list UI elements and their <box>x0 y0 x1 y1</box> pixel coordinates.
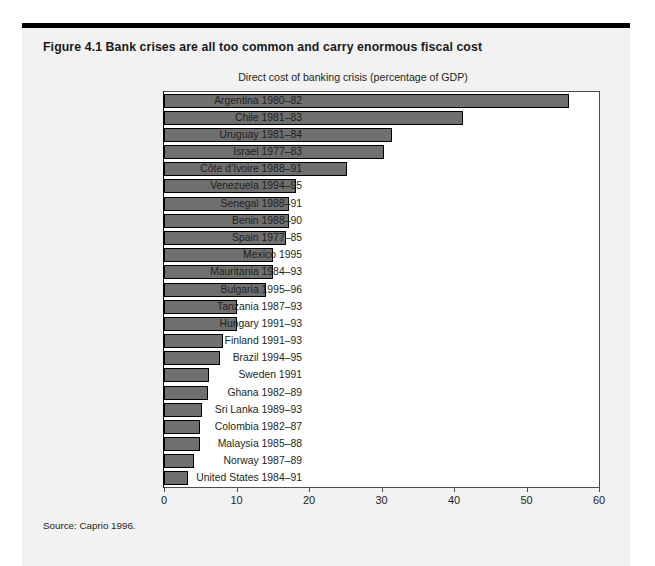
category-label: Mauritania 1984–93 <box>132 266 302 277</box>
x-axis-tick <box>599 487 600 492</box>
category-label: Hungary 1991–93 <box>132 318 302 329</box>
category-label: Uruguay 1981–84 <box>132 129 302 140</box>
x-axis-tick-label: 50 <box>520 494 532 506</box>
plot-area: Argentina 1980–82Chile 1981–83Uruguay 19… <box>163 91 600 488</box>
x-axis-tick <box>164 487 165 492</box>
x-axis-tick-label: 20 <box>303 494 315 506</box>
category-label: Bulgaria 1995–96 <box>132 284 302 295</box>
category-label: Sweden 1991 <box>132 369 302 380</box>
chart-subtitle: Direct cost of banking crisis (percentag… <box>22 71 630 83</box>
category-label: United States 1984–91 <box>132 472 302 483</box>
category-label: Ghana 1982–89 <box>132 387 302 398</box>
category-label: Sri Lanka 1989–93 <box>132 404 302 415</box>
category-label: Colombia 1982–87 <box>132 421 302 432</box>
category-label: Benin 1988–90 <box>132 215 302 226</box>
category-label: Finland 1991–93 <box>132 335 302 346</box>
category-label: Spain 1977–85 <box>132 232 302 243</box>
category-label: Argentina 1980–82 <box>132 95 302 106</box>
category-label: Norway 1987–89 <box>132 455 302 466</box>
x-axis-tick <box>237 487 238 492</box>
x-axis-tick <box>309 487 310 492</box>
category-axis-labels: Argentina 1980–82Chile 1981–83Uruguay 19… <box>127 92 302 487</box>
figure-title: Figure 4.1 Bank crises are all too commo… <box>43 40 482 54</box>
top-rule-divider <box>22 23 630 28</box>
category-label: Malaysia 1985–88 <box>132 438 302 449</box>
x-axis-tick-label: 30 <box>375 494 387 506</box>
x-axis-tick <box>527 487 528 492</box>
x-axis-tick <box>454 487 455 492</box>
category-label: Senegal 1988–91 <box>132 198 302 209</box>
category-label: Tanzania 1987–93 <box>132 301 302 312</box>
category-label: Brazil 1994–95 <box>132 352 302 363</box>
x-axis-tick <box>382 487 383 492</box>
source-note: Source: Caprio 1996. <box>43 520 136 531</box>
x-axis-tick-label: 60 <box>593 494 605 506</box>
category-label: Israel 1977–83 <box>132 146 302 157</box>
category-label: Chile 1981–83 <box>132 112 302 123</box>
x-axis-tick-label: 40 <box>448 494 460 506</box>
x-axis-tick-label: 10 <box>230 494 242 506</box>
category-label: Venezuela 1994–95 <box>132 180 302 191</box>
chart-subtitle-text: Direct cost of banking crisis (percentag… <box>238 71 468 83</box>
category-label: Côte d’Ivoire 1988–91 <box>132 163 302 174</box>
category-label: Mexico 1995 <box>132 249 302 260</box>
figure-panel: Figure 4.1 Bank crises are all too commo… <box>22 23 630 566</box>
x-axis-tick-label: 0 <box>161 494 167 506</box>
